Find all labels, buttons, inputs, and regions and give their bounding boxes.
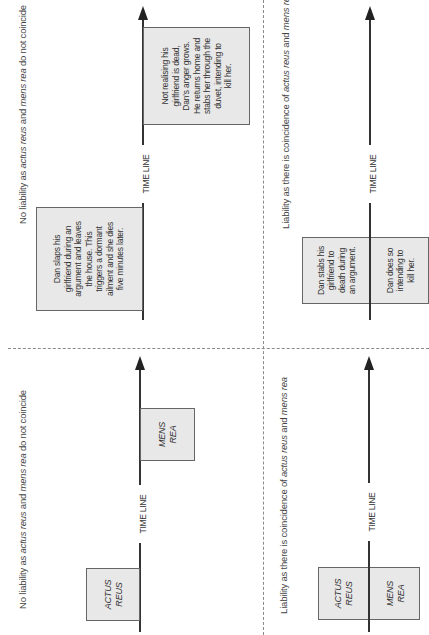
arrow-head-icon — [365, 6, 375, 20]
event-text-slap: Dan slaps his girlfriend during an argum… — [36, 207, 142, 311]
timeline-label: TIME LINE — [138, 485, 148, 543]
arrow-head-icon — [138, 6, 148, 20]
mens-rea-text: MENS REA — [141, 407, 194, 462]
mens-rea-text: Dan does so intending to kill her. — [367, 242, 429, 300]
event-text-stab: Not realising his girlfriend is dead, Da… — [146, 27, 248, 125]
arrow-head-icon — [364, 356, 374, 370]
caption: Liability as there is coincidence of act… — [280, 0, 291, 231]
timeline-label: TIME LINE — [141, 145, 151, 203]
actus-reus-text: ACTUS REUS — [87, 568, 140, 622]
horizontal-divider — [8, 348, 429, 349]
caption: No liability as actus reus and mens rea … — [17, 360, 28, 635]
caption: Liability as there is coincidence of act… — [278, 376, 289, 616]
actus-reus-text: Dan stabs his girlfriend to death during… — [303, 238, 370, 304]
arrow-head-icon — [135, 356, 145, 370]
actus-reus-text: ACTUS REUS — [317, 569, 370, 619]
timeline-label: TIME LINE — [367, 483, 377, 541]
vertical-divider — [263, 0, 264, 635]
mens-rea-text: MENS REA — [369, 569, 422, 619]
caption: No liability as actus reus and mens rea … — [17, 0, 28, 255]
timeline-label: TIME LINE — [368, 145, 378, 203]
